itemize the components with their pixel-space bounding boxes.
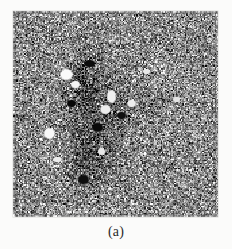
figure-caption: (a) [0, 223, 232, 241]
figure-panel-a: (a) [0, 0, 232, 249]
speckle-image [13, 11, 218, 217]
speckle-image-canvas [13, 11, 218, 217]
